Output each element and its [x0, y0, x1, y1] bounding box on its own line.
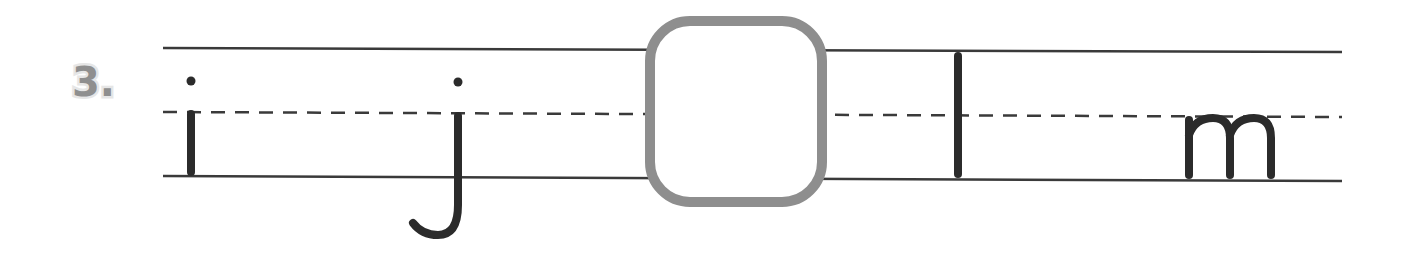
letter-m — [1189, 118, 1271, 175]
j-dot — [454, 78, 463, 87]
m-arch-1 — [1189, 118, 1230, 175]
letter-j — [413, 78, 463, 236]
handwriting-worksheet: 3. — [0, 0, 1407, 254]
answer-box[interactable] — [650, 21, 822, 202]
exercise-number: 3. — [72, 59, 115, 105]
j-stem — [413, 116, 458, 235]
letter-i — [187, 77, 196, 173]
m-arch-2 — [1230, 118, 1271, 175]
i-dot — [187, 77, 196, 86]
